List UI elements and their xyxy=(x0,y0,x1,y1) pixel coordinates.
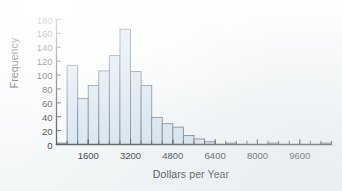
histogram-bar xyxy=(173,127,184,144)
histogram-bar xyxy=(88,85,99,144)
histogram-bar xyxy=(99,71,110,145)
x-axis-tick-label: 6400 xyxy=(195,150,235,161)
x-axis-tick-label: 4800 xyxy=(153,150,193,161)
x-axis-tick-label: 9600 xyxy=(280,150,320,161)
y-axis-tick-label: 160 xyxy=(27,28,53,39)
y-axis-tick-label: 60 xyxy=(27,97,53,108)
histogram-bar xyxy=(109,56,120,145)
y-axis-tick-label: 40 xyxy=(27,111,53,122)
bars-group xyxy=(57,29,332,144)
histogram-figure: 020406080100120140160180 160032004800640… xyxy=(0,0,342,191)
histogram-bar xyxy=(183,135,194,144)
histogram-bar xyxy=(120,29,131,144)
y-axis-tick-label: 100 xyxy=(27,70,53,81)
y-axis-tick-label: 120 xyxy=(27,56,53,67)
x-axis-tick-label: 1600 xyxy=(68,150,108,161)
histogram-bar xyxy=(78,99,89,145)
y-axis-tick-label: 180 xyxy=(27,14,53,25)
histogram-bar xyxy=(141,85,152,144)
histogram-bar xyxy=(194,139,205,145)
histogram-bar xyxy=(152,117,163,144)
y-axis-title: Frequency xyxy=(8,23,20,103)
x-axis-tick-label: 8000 xyxy=(237,150,277,161)
histogram-bar xyxy=(162,124,173,145)
x-axis-title: Dollars per Year xyxy=(56,168,326,180)
y-axis-tick-label: 0 xyxy=(27,139,53,150)
y-axis-tick-label: 140 xyxy=(27,42,53,53)
x-axis-tick-label: 3200 xyxy=(111,150,151,161)
y-axis-tick-label: 80 xyxy=(27,83,53,94)
y-axis-tick-label: 20 xyxy=(27,125,53,136)
histogram-bar xyxy=(67,65,78,144)
histogram-bar xyxy=(131,72,142,145)
